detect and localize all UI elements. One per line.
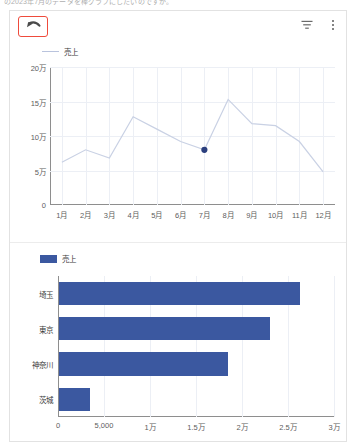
filter-icon[interactable]	[300, 17, 313, 33]
x-axis-tick: 1月	[56, 209, 67, 220]
y-axis-tick: 10万	[31, 131, 46, 142]
bar[interactable]	[59, 352, 228, 375]
x-axis-tick: 10月	[268, 209, 283, 220]
x-axis-tick: 7月	[199, 209, 210, 220]
bar[interactable]	[59, 317, 270, 340]
legend-label: 売上	[62, 253, 76, 264]
x-axis-tick: 11月	[292, 209, 307, 220]
more-options-icon[interactable]	[326, 17, 339, 33]
bar-chart-plot-area: 05,0001万1.5万2万2.5万3万埼玉東京神奈川茨城	[58, 276, 334, 417]
x-axis-tick: 8月	[223, 209, 234, 220]
line-chart-legend: 売上	[42, 46, 78, 57]
x-axis-tick: 2万	[236, 421, 247, 432]
legend-bar-swatch	[40, 255, 57, 263]
x-axis-tick: 1.5万	[187, 421, 204, 432]
y-axis-tick: 5万	[35, 165, 46, 176]
x-axis-tick: 12月	[315, 209, 330, 220]
bar-chart-legend: 売上	[40, 253, 76, 264]
x-axis-tick: 1万	[144, 421, 155, 432]
screenshot-root: の2023年7月のデータを棒グラフにしたいのですが。	[0, 0, 354, 444]
y-axis-tick: 0	[42, 201, 46, 210]
x-axis-tick: 3万	[328, 421, 339, 432]
undo-arrow-icon	[26, 21, 41, 32]
bar-category-label: 神奈川	[32, 359, 53, 370]
page-heading-clipped: の2023年7月のデータを棒グラフにしたいのですが。	[4, 0, 173, 6]
x-axis-tick: 4月	[128, 209, 139, 220]
x-axis-tick: 5月	[151, 209, 162, 220]
chart-card: 売上 05万10万15万20万1月2月3月4月5月6月7月8月9月10月11月1…	[9, 10, 347, 442]
x-axis-tick: 6月	[175, 209, 186, 220]
card-toolbar	[10, 11, 346, 41]
y-axis-tick: 20万	[31, 62, 46, 73]
toolbar-right-actions	[300, 17, 339, 33]
bar-category-label: 茨城	[39, 394, 53, 405]
x-axis-tick: 5,000	[95, 421, 114, 430]
x-axis-tick: 2月	[80, 209, 91, 220]
x-axis-tick: 3月	[104, 209, 115, 220]
line-series	[50, 67, 335, 205]
bar-chart: 売上 05,0001万1.5万2万2.5万3万埼玉東京神奈川茨城	[10, 243, 348, 443]
x-axis-tick: 2.5万	[279, 421, 296, 432]
legend-label: 売上	[64, 46, 78, 57]
bar-category-label: 東京	[39, 323, 53, 334]
legend-line-swatch	[42, 51, 59, 52]
undo-button[interactable]	[18, 16, 48, 37]
bar[interactable]	[59, 282, 300, 305]
line-chart: 売上 05万10万15万20万1月2月3月4月5月6月7月8月9月10月11月1…	[10, 41, 348, 241]
x-axis-tick: 0	[56, 421, 60, 430]
x-axis-tick: 9月	[246, 209, 257, 220]
y-axis-tick: 15万	[31, 96, 46, 107]
line-chart-plot-area: 05万10万15万20万1月2月3月4月5月6月7月8月9月10月11月12月	[50, 67, 335, 205]
highlighted-data-point[interactable]	[201, 147, 207, 153]
bar-category-label: 埼玉	[39, 288, 53, 299]
bar[interactable]	[59, 388, 90, 411]
gridline-vertical	[334, 276, 335, 417]
